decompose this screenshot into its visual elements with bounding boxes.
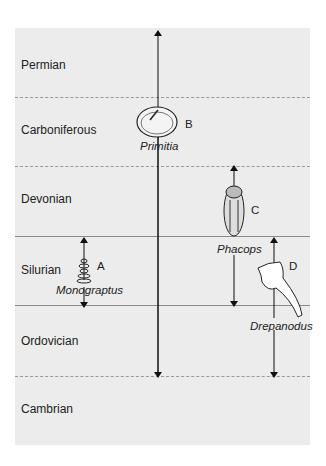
letter-a: A bbox=[97, 260, 105, 272]
label-primitia: Primitia bbox=[140, 140, 178, 152]
letter-b: B bbox=[185, 118, 193, 130]
label-drepanodus: Drepanodus bbox=[250, 320, 313, 332]
letter-c: C bbox=[251, 204, 259, 216]
label-phacops: Phacops bbox=[217, 243, 262, 255]
primitia-fossil-icon bbox=[137, 107, 177, 137]
range-arrows bbox=[0, 0, 326, 466]
letter-d: D bbox=[289, 260, 297, 272]
label-monograptus: Monograptus bbox=[56, 284, 123, 296]
phacops-fossil-icon bbox=[224, 186, 244, 236]
